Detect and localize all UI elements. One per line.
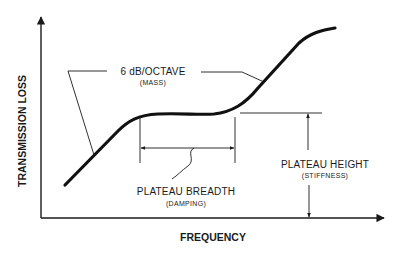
transmission-loss-diagram: TRANSMISSION LOSS FREQUENCY 6 dB/OCTAVE … [0,0,400,256]
plateau-breadth-marker [140,117,235,179]
height-sublabel: (STIFFNESS) [302,172,348,180]
slope-sublabel: (MASS) [140,79,166,87]
breadth-sublabel: (DAMPING) [166,200,206,208]
y-axis-label: TRANSMISSION LOSS [16,75,28,187]
height-label: PLATEAU HEIGHT [281,159,369,170]
x-axis-label: FREQUENCY [180,231,246,243]
breadth-label: PLATEAU BREADTH [137,186,235,197]
slope-label: 6 dB/OCTAVE [120,66,185,77]
